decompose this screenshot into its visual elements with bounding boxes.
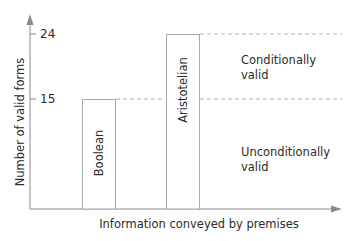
y-tick-label-15: 15 <box>40 92 55 106</box>
y-axis-arrow-icon <box>27 14 34 25</box>
bar-label-aristotelian: Aristotelian <box>176 50 190 130</box>
y-tick-label-24: 24 <box>40 27 55 41</box>
region-unconditional-line1: Unconditionally <box>241 145 330 159</box>
y-axis-label: Number of valid forms <box>13 54 27 190</box>
x-axis-arrow-icon <box>331 206 342 213</box>
region-unconditional-line2: valid <box>241 160 269 174</box>
bar-label-boolean: Boolean <box>92 113 106 193</box>
region-conditional-line2: valid <box>241 68 269 82</box>
region-conditional-line1: Conditionally <box>241 53 316 67</box>
x-axis-label: Information conveyed by premises <box>94 217 304 231</box>
